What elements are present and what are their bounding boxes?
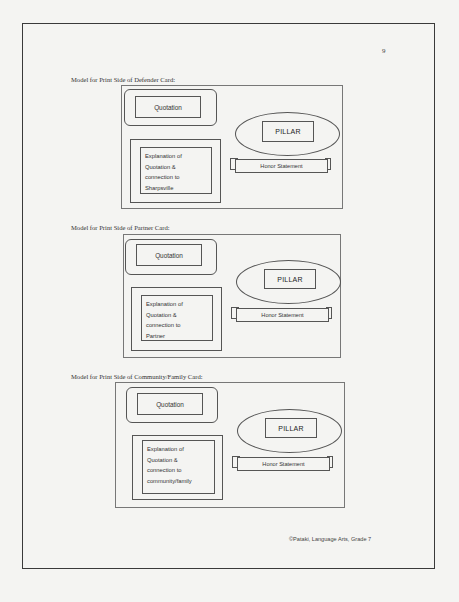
explanation-line: Quotation & <box>146 310 208 321</box>
caption-community-family-card: Model for Print Side of Community/Family… <box>71 373 203 380</box>
explanation-line: connection to <box>147 465 210 476</box>
pillar-box: PILLAR <box>264 269 316 289</box>
copyright-footer: ©Pataki, Language Arts, Grade 7 <box>289 536 371 542</box>
defender-card-model: Quotation Explanation of Quotation & con… <box>121 85 343 209</box>
explanation-line: Explanation of <box>146 299 208 310</box>
pillar-box: PILLAR <box>265 418 317 438</box>
explanation-line: Partner <box>146 331 208 342</box>
community-family-card-model: Quotation Explanation of Quotation & con… <box>115 382 345 508</box>
explanation-line: Explanation of <box>147 444 210 455</box>
quotation-box: Quotation <box>136 244 202 266</box>
honor-statement-scroll: Honor Statement <box>236 308 329 322</box>
pillar-box: PILLAR <box>262 121 314 142</box>
caption-partner-card: Model for Print Side of Partner Card: <box>71 224 170 231</box>
explanation-line: connection to <box>145 172 207 183</box>
quotation-frame: Quotation <box>124 89 217 126</box>
quotation-frame: Quotation <box>126 387 218 423</box>
page-number: 9 <box>382 47 386 55</box>
pillar-ellipse: PILLAR <box>237 409 342 453</box>
quotation-box: Quotation <box>135 96 201 118</box>
explanation-frame: Explanation of Quotation & connection to… <box>132 435 223 500</box>
explanation-box: Explanation of Quotation & connection to… <box>140 147 212 194</box>
pillar-ellipse: PILLAR <box>236 260 341 304</box>
explanation-line: Quotation & <box>145 162 207 173</box>
explanation-line: connection to <box>146 320 208 331</box>
quotation-box: Quotation <box>137 393 203 415</box>
explanation-line: community/family <box>147 476 210 487</box>
partner-card-model: Quotation Explanation of Quotation & con… <box>123 234 341 358</box>
explanation-line: Sharpsville <box>145 183 207 194</box>
explanation-frame: Explanation of Quotation & connection to… <box>130 139 221 203</box>
explanation-line: Explanation of <box>145 151 207 162</box>
honor-statement-scroll: Honor Statement <box>237 457 330 471</box>
quotation-frame: Quotation <box>125 239 217 275</box>
honor-statement-scroll: Honor Statement <box>235 159 328 173</box>
pillar-ellipse: PILLAR <box>235 112 340 156</box>
caption-defender-card: Model for Print Side of Defender Card: <box>71 76 175 83</box>
explanation-box: Explanation of Quotation & connection to… <box>141 295 213 341</box>
explanation-line: Quotation & <box>147 455 210 466</box>
explanation-frame: Explanation of Quotation & connection to… <box>131 287 222 351</box>
explanation-box: Explanation of Quotation & connection to… <box>142 440 215 494</box>
